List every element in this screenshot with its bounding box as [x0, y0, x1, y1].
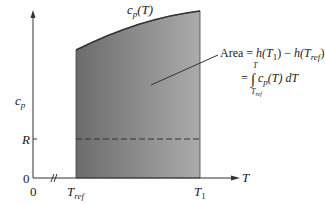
- integral-upper-text: T: [253, 61, 257, 70]
- integral-equals: =: [241, 71, 251, 85]
- x-tick-t1-sub: 1: [201, 191, 206, 201]
- y-axis-label-sub: p: [21, 100, 26, 110]
- x-tick-t1: T1: [194, 185, 206, 201]
- x-axis-label: T: [242, 171, 249, 184]
- integral-expression: = ∫ cp(T) dT: [241, 72, 298, 87]
- area-annotation: Area = h(T1) − h(Tref): [220, 47, 324, 62]
- annotation-tref: (T: [300, 46, 311, 60]
- curve-label-arg: (T): [137, 2, 153, 17]
- integral-upper-limit: T: [253, 62, 257, 70]
- annotation-minus: ) −: [277, 46, 294, 60]
- x-axis-arrow-icon: [231, 176, 240, 181]
- x-tick-0: 0: [30, 185, 37, 198]
- y-axis-label: cp: [15, 94, 25, 110]
- curve-label: cp(T): [127, 3, 153, 19]
- annotation-tref-sub: ref: [311, 52, 321, 62]
- integral-lower-sub: ref: [255, 91, 261, 97]
- x-tick-tref: Tref: [67, 185, 84, 201]
- annotation-prefix: Area =: [220, 46, 256, 60]
- y-axis-arrow-icon: [31, 10, 36, 18]
- integrand-arg: (T) dT: [268, 71, 298, 85]
- integral-lower-limit: Tref: [251, 88, 262, 97]
- y-tick-r: R: [22, 133, 30, 146]
- diagram-canvas: [0, 0, 325, 204]
- y-tick-0: 0: [23, 172, 30, 185]
- x-tick-tref-sub: ref: [74, 191, 84, 201]
- area-under-curve: [76, 11, 200, 178]
- annotation-close: ): [320, 46, 324, 60]
- integral-sign-icon: ∫: [251, 71, 255, 87]
- annotation-t1: (T: [262, 46, 273, 60]
